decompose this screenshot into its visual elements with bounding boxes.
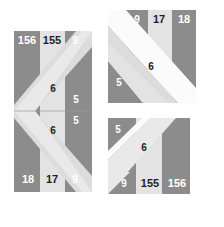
figure-label-156: 156 (168, 177, 186, 189)
bottom-right-triangle-figure: 569155156 (0, 0, 224, 227)
figure-label-155: 155 (141, 177, 159, 189)
figure-label-5: 5 (115, 124, 121, 135)
figure-label-6: 6 (141, 142, 147, 153)
figure-label-9: 9 (121, 178, 127, 189)
diagram-canvas: 1561559655618179 9171865 (0, 0, 224, 227)
